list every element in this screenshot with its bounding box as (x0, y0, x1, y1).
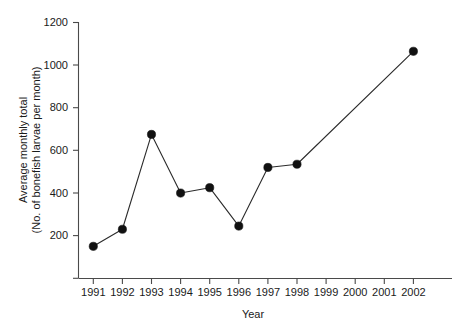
data-point-1991 (89, 242, 97, 250)
x-tick-labels: 1991 1992 1993 1994 1995 1996 1997 1998 … (81, 286, 426, 298)
x-tick-label-2000: 2000 (343, 286, 367, 298)
data-point-1994 (177, 189, 185, 197)
x-tick-label-1995: 1995 (197, 286, 221, 298)
x-tick-marks (93, 279, 413, 285)
data-point-1993 (147, 130, 155, 138)
x-tick-label-1992: 1992 (110, 286, 134, 298)
x-axis-title: Year (242, 308, 265, 320)
series-points (89, 47, 417, 250)
data-point-1996 (235, 222, 243, 230)
series-line (93, 51, 413, 246)
y-tick-label-800: 800 (50, 101, 68, 113)
x-tick-label-1991: 1991 (81, 286, 105, 298)
x-tick-label-1998: 1998 (285, 286, 309, 298)
y-axis-title: Average monthly total (No. of bonefish l… (17, 67, 42, 234)
y-tick-labels: 1200 1000 800 600 400 200 (44, 16, 68, 241)
x-tick-label-2002: 2002 (401, 286, 425, 298)
x-tick-label-1997: 1997 (256, 286, 280, 298)
y-tick-label-1200: 1200 (44, 16, 68, 28)
x-tick-label-1999: 1999 (314, 286, 338, 298)
data-point-1995 (206, 184, 214, 192)
data-point-1997 (264, 163, 272, 171)
y-axis-title-line2: (No. of bonefish larvae per month) (30, 67, 42, 234)
x-tick-label-1994: 1994 (168, 286, 192, 298)
data-point-1992 (118, 225, 126, 233)
data-point-1998 (293, 160, 301, 168)
y-tick-label-400: 400 (50, 187, 68, 199)
x-tick-label-2001: 2001 (372, 286, 396, 298)
y-tick-marks (73, 23, 79, 279)
y-axis-title-line1: Average monthly total (17, 97, 29, 203)
y-tick-label-200: 200 (50, 229, 68, 241)
chart-canvas: 1200 1000 800 600 400 200 Average monthl… (0, 0, 462, 333)
data-point-2002 (409, 47, 417, 55)
y-tick-label-1000: 1000 (44, 59, 68, 71)
y-tick-label-600: 600 (50, 144, 68, 156)
line-chart: 1200 1000 800 600 400 200 Average monthl… (0, 0, 462, 333)
x-tick-label-1996: 1996 (227, 286, 251, 298)
x-tick-label-1993: 1993 (139, 286, 163, 298)
